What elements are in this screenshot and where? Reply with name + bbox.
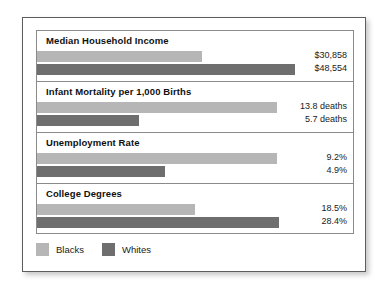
metric-row: College Degrees 18.5% 28.4%	[37, 184, 353, 235]
metric-title: College Degrees	[46, 188, 122, 199]
metric-bars: 18.5% 28.4%	[37, 204, 353, 232]
bar-value-whites: 5.7 deaths	[305, 114, 347, 124]
legend-swatch-icon	[102, 243, 115, 256]
bar-track-whites: 28.4%	[37, 217, 353, 228]
bar-value-whites: 28.4%	[321, 216, 347, 226]
bar-value-blacks: $30,858	[314, 50, 347, 60]
metric-row: Infant Mortality per 1,000 Births 13.8 d…	[37, 82, 353, 133]
metric-row: Median Household Income $30,858 $48,554	[37, 31, 353, 82]
bar-value-blacks: 13.8 deaths	[300, 101, 347, 111]
metric-title: Median Household Income	[46, 35, 169, 46]
metric-bars: 9.2% 4.9%	[37, 153, 353, 181]
bar-track-blacks: 13.8 deaths	[37, 102, 353, 113]
bar-track-whites: $48,554	[37, 64, 353, 75]
legend-label: Blacks	[56, 244, 84, 255]
bar-value-whites: $48,554	[314, 63, 347, 73]
legend-item-blacks: Blacks	[36, 243, 84, 256]
bar-track-whites: 4.9%	[37, 166, 353, 177]
legend-swatch-icon	[36, 243, 49, 256]
bar-whites	[37, 217, 279, 228]
metric-title: Unemployment Rate	[46, 137, 140, 148]
metric-row: Unemployment Rate 9.2% 4.9%	[37, 133, 353, 184]
bar-blacks	[37, 102, 277, 113]
bar-value-whites: 4.9%	[326, 165, 347, 175]
metric-title: Infant Mortality per 1,000 Births	[46, 86, 191, 97]
bar-blacks	[37, 204, 195, 215]
metric-bars: $30,858 $48,554	[37, 51, 353, 79]
bar-value-blacks: 9.2%	[326, 152, 347, 162]
bar-track-blacks: $30,858	[37, 51, 353, 62]
bar-blacks	[37, 51, 202, 62]
bar-track-blacks: 9.2%	[37, 153, 353, 164]
metrics-panel: Median Household Income $30,858 $48,554 …	[36, 30, 354, 234]
bar-blacks	[37, 153, 277, 164]
bar-track-whites: 5.7 deaths	[37, 115, 353, 126]
bar-track-blacks: 18.5%	[37, 204, 353, 215]
bar-whites	[37, 166, 165, 177]
bar-whites	[37, 64, 295, 75]
legend-item-whites: Whites	[102, 243, 151, 256]
chart-legend: Blacks Whites	[36, 243, 151, 256]
legend-label: Whites	[122, 244, 151, 255]
bar-value-blacks: 18.5%	[321, 203, 347, 213]
chart-card-frame: Median Household Income $30,858 $48,554 …	[22, 17, 366, 272]
bar-whites	[37, 115, 139, 126]
metric-bars: 13.8 deaths 5.7 deaths	[37, 102, 353, 130]
chart-canvas: Median Household Income $30,858 $48,554 …	[0, 0, 389, 290]
